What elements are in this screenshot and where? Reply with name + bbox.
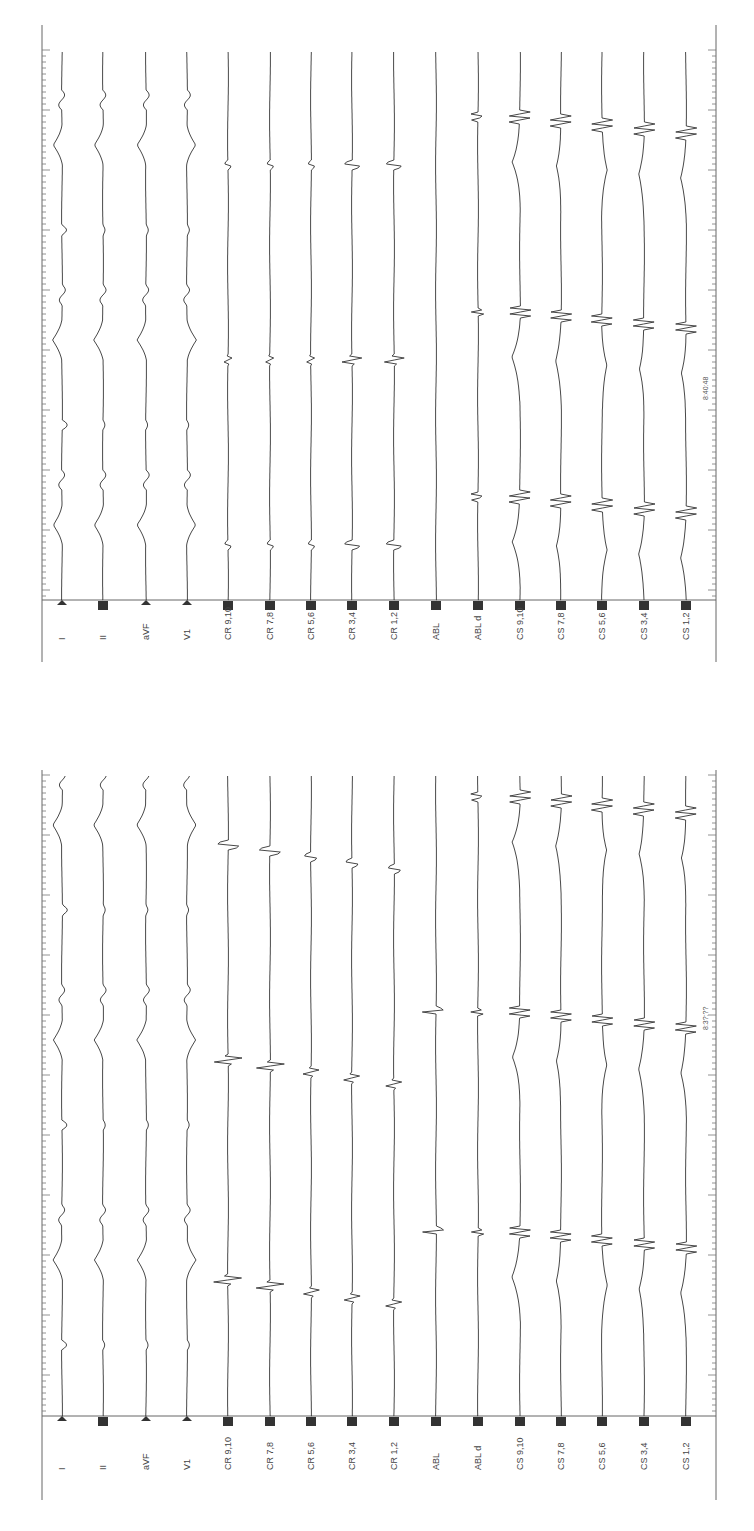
trace-cr-3-4 xyxy=(344,776,360,1416)
channel-label: aVF xyxy=(141,623,151,640)
channel-marker-square-icon xyxy=(556,601,566,610)
channel-label: ABL xyxy=(431,623,441,640)
trace-cs-5-6 xyxy=(591,52,613,600)
trace-ii xyxy=(94,776,106,1416)
channel-label: CS 5,6 xyxy=(597,612,607,640)
channel-marker-square-icon xyxy=(306,601,316,610)
channel-label: II xyxy=(98,635,108,640)
channel-label: CS 9,10 xyxy=(515,1437,525,1470)
channel-marker-square-icon xyxy=(681,601,691,610)
channel-marker-square-icon xyxy=(515,1417,525,1426)
trace-ii xyxy=(94,52,106,600)
channel-marker-square-icon xyxy=(98,1417,108,1426)
ecg-chart: IIIaVFV1CR 9,10CR 7,8CR 5,6CR 3,4CR 1,2A… xyxy=(0,0,754,1531)
trace-cs-3-4 xyxy=(633,52,655,600)
channel-marker-square-icon xyxy=(306,1417,316,1426)
channel-marker-triangle-icon xyxy=(141,600,151,605)
channel-label: CR 9,10 xyxy=(223,1437,233,1470)
channel-label: I xyxy=(57,1467,67,1470)
channel-marker-triangle-icon xyxy=(57,1416,67,1421)
trace-cr-7-8 xyxy=(256,776,284,1416)
channel-marker-triangle-icon xyxy=(141,1416,151,1421)
channel-marker-square-icon xyxy=(431,1417,441,1426)
channel-label: I xyxy=(57,637,67,640)
trace-cs-5-6 xyxy=(591,776,612,1416)
timestamp-label: 8:3?:?? xyxy=(702,1007,709,1030)
channel-marker-square-icon xyxy=(639,601,649,610)
trace-cs-9-10 xyxy=(509,52,531,600)
channel-marker-triangle-icon xyxy=(182,600,192,605)
trace-i xyxy=(53,52,67,600)
channel-label: ABL d xyxy=(473,616,483,640)
trace-cs-3-4 xyxy=(633,776,655,1416)
channel-label: CR 5,6 xyxy=(306,1442,316,1470)
channel-label: CR 7,8 xyxy=(265,612,275,640)
trace-i xyxy=(53,776,67,1416)
trace-cr-9-10 xyxy=(214,776,242,1416)
trace-cs-1-2 xyxy=(675,776,697,1416)
timestamp-label: 8:40:48 xyxy=(702,377,709,400)
channel-marker-square-icon xyxy=(347,1417,357,1426)
channel-label: CS 3,4 xyxy=(639,1442,649,1470)
trace-cr-5-6 xyxy=(303,776,319,1416)
channel-marker-square-icon xyxy=(389,601,399,610)
trace-v1 xyxy=(184,776,196,1416)
channel-label: CR 9,10 xyxy=(223,607,233,640)
channel-label: CR 3,4 xyxy=(347,612,357,640)
trace-cr-5-6 xyxy=(307,52,315,600)
channel-label: CR 5,6 xyxy=(306,612,316,640)
channel-label: CS 1,2 xyxy=(681,1442,691,1470)
trace-v1 xyxy=(184,52,197,600)
channel-label: aVF xyxy=(141,1453,151,1470)
channel-label: CS 9,10 xyxy=(515,607,525,640)
trace-cs-7-8 xyxy=(550,52,572,600)
channel-marker-square-icon xyxy=(473,601,483,610)
trace-avf xyxy=(137,776,150,1416)
channel-marker-square-icon xyxy=(265,601,275,610)
trace-cr-7-8 xyxy=(266,52,274,600)
trace-abl-d xyxy=(471,776,484,1416)
channel-label: CS 1,2 xyxy=(681,612,691,640)
channel-label: V1 xyxy=(182,629,192,640)
channel-label: II xyxy=(98,1465,108,1470)
trace-avf xyxy=(137,52,149,600)
channel-label: CS 3,4 xyxy=(639,612,649,640)
channel-label: CS 7,8 xyxy=(556,1442,566,1470)
channel-marker-square-icon xyxy=(473,1417,483,1426)
channel-label: CS 5,6 xyxy=(597,1442,607,1470)
channel-marker-square-icon xyxy=(431,601,441,610)
channel-marker-square-icon xyxy=(223,1417,233,1426)
channel-label: V1 xyxy=(182,1459,192,1470)
trace-abl xyxy=(422,776,443,1416)
channel-label: CR 3,4 xyxy=(347,1442,357,1470)
channel-label: ABL d xyxy=(473,1446,483,1470)
trace-cs-9-10 xyxy=(509,776,531,1416)
channel-marker-square-icon xyxy=(597,601,607,610)
channel-label: CR 1,2 xyxy=(389,1442,399,1470)
channel-marker-square-icon xyxy=(556,1417,566,1426)
trace-cs-7-8 xyxy=(550,776,572,1416)
channel-marker-square-icon xyxy=(639,1417,649,1426)
channel-marker-square-icon xyxy=(98,601,108,610)
trace-abl-d xyxy=(471,52,484,600)
channel-marker-square-icon xyxy=(681,1417,691,1426)
channel-marker-triangle-icon xyxy=(182,1416,192,1421)
trace-cr-9-10 xyxy=(224,52,232,600)
trace-cr-3-4 xyxy=(342,52,362,600)
channel-label: CS 7,8 xyxy=(556,612,566,640)
trace-cs-1-2 xyxy=(675,52,696,600)
trace-abl xyxy=(436,52,437,600)
channel-marker-square-icon xyxy=(265,1417,275,1426)
channel-marker-square-icon xyxy=(389,1417,399,1426)
trace-cr-1-2 xyxy=(384,52,404,600)
trace-cr-1-2 xyxy=(386,776,402,1416)
channel-label: ABL xyxy=(431,1453,441,1470)
channel-marker-triangle-icon xyxy=(57,600,67,605)
channel-label: CR 1,2 xyxy=(389,612,399,640)
channel-marker-square-icon xyxy=(597,1417,607,1426)
channel-label: CR 7,8 xyxy=(265,1442,275,1470)
channel-marker-square-icon xyxy=(347,601,357,610)
